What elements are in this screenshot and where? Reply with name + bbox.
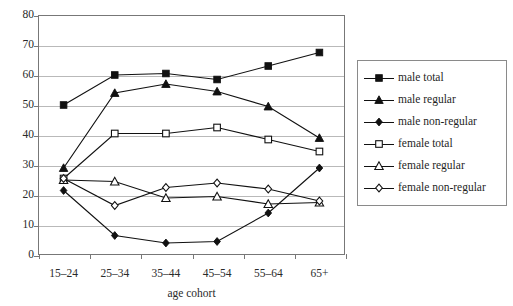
filled-diamond-marker [376, 118, 383, 126]
open-triangle-marker [375, 162, 383, 170]
x-axis-tick [141, 254, 142, 259]
y-axis-tick [34, 76, 39, 77]
x-axis-tick-label: 15–24 [49, 267, 78, 279]
x-axis-title: age cohort [167, 287, 215, 299]
open-diamond-icon [364, 180, 394, 196]
y-axis-tick [34, 256, 39, 257]
open-diamond-marker [376, 184, 383, 192]
gridline [39, 76, 344, 77]
y-axis-tick [34, 196, 39, 197]
gridline [39, 46, 344, 47]
y-axis-tick-label: 0 [8, 249, 34, 261]
legend-item-female-total[interactable]: female total [364, 134, 453, 154]
chart-legend: male totalmale regularmale non-regularfe… [357, 60, 507, 206]
y-axis-tick-label: 10 [8, 219, 34, 231]
legend-item-female-regular[interactable]: female regular [364, 156, 465, 176]
gridline [39, 136, 344, 137]
x-axis-tick [244, 254, 245, 259]
chart-root: 01020304050607080 15–2425–3435–4445–5455… [0, 0, 513, 306]
y-axis-tick [34, 46, 39, 47]
y-axis-tick-label: 20 [8, 189, 34, 201]
open-square-marker [376, 141, 383, 148]
y-axis-tick [34, 136, 39, 137]
x-axis-tick [39, 254, 40, 259]
legend-item-male-regular[interactable]: male regular [364, 90, 456, 110]
legend-item-male-non-regular[interactable]: male non-regular [364, 112, 477, 132]
plot-area [38, 15, 345, 255]
x-axis-tick-label: 65+ [310, 267, 328, 279]
filled-diamond-icon [364, 114, 394, 130]
y-axis-tick-label: 50 [8, 99, 34, 111]
x-axis-tick [295, 254, 296, 259]
y-axis-tick [34, 226, 39, 227]
filled-square-marker [376, 75, 383, 82]
open-triangle-icon [364, 158, 394, 174]
y-axis-tick-label: 70 [8, 39, 34, 51]
legend-item-female-non-regular[interactable]: female non-regular [364, 178, 486, 198]
x-axis-tick [346, 254, 347, 259]
x-axis-tick-label: 45–54 [203, 267, 232, 279]
gridline [39, 166, 344, 167]
gridline [39, 106, 344, 107]
legend-label: female non-regular [398, 182, 486, 194]
y-axis-labels: 01020304050607080 [0, 0, 34, 270]
filled-square-icon [364, 70, 394, 86]
y-axis-tick-label: 30 [8, 159, 34, 171]
gridline [39, 196, 344, 197]
x-axis-tick [193, 254, 194, 259]
legend-label: male non-regular [398, 116, 477, 128]
legend-label: male total [398, 72, 444, 84]
gridline [39, 226, 344, 227]
y-axis-tick-label: 60 [8, 69, 34, 81]
x-axis-tick-label: 35–44 [152, 267, 181, 279]
x-axis-tick-label: 25–34 [100, 267, 129, 279]
open-square-icon [364, 136, 394, 152]
x-axis-tick-label: 55–64 [254, 267, 283, 279]
y-axis-tick-label: 80 [8, 9, 34, 21]
legend-item-male-total[interactable]: male total [364, 68, 444, 88]
legend-label: female regular [398, 160, 465, 172]
y-axis-tick [34, 106, 39, 107]
x-axis-tick [90, 254, 91, 259]
legend-label: male regular [398, 94, 456, 106]
filled-triangle-marker [375, 96, 383, 104]
y-axis-tick-label: 40 [8, 129, 34, 141]
y-axis-tick [34, 166, 39, 167]
legend-label: female total [398, 138, 453, 150]
filled-triangle-icon [364, 92, 394, 108]
y-axis-tick [34, 16, 39, 17]
